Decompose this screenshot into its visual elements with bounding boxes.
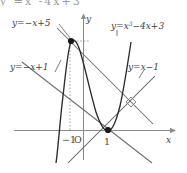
tick-label-one: 1 [104,136,110,147]
label-cubic-base: y=x [110,21,129,31]
x-axis-arrow [170,128,176,133]
label-tangent-upper: y=−x+5 [11,18,51,28]
line-right-ascending [68,76,155,163]
leader-line-lower-label [55,60,61,72]
svg-text:y=x3−4x+3: y=x3−4x+3 [110,20,164,31]
point-intersection-at-1 [105,127,111,133]
graph-canvas: y=−x+5 y=−x+1 y=x−1 y=x3−4x+3 y x −1 O 1 [0,0,187,173]
label-cubic-curve: y=x3−4x+3 [110,20,164,31]
label-line-right: y=x−1 [127,62,159,72]
cutoff-header-text: y =x -4x+3 [0,0,187,6]
label-line-lower-left: y=−x+1 [9,62,49,72]
math-figure: y =x -4x+3 [0,0,187,173]
origin-label: O [74,134,82,145]
axes-group [14,14,176,161]
guide-lines-group [70,41,90,130]
x-axis-label: x [166,135,171,145]
point-local-max [68,38,74,44]
label-cubic-rest: −4x+3 [133,21,165,31]
y-axis-label: y [85,14,92,24]
